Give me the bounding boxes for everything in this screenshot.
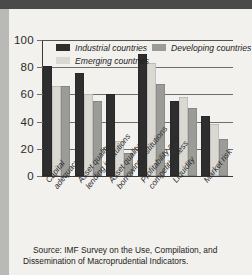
legend-swatch-emerging-icon xyxy=(56,57,70,64)
x-axis-labels: CapitaladequacyAsset quality:lending ins… xyxy=(42,177,242,245)
legend-item-developing-countries: Developing countries xyxy=(152,43,251,53)
y-tick-label-60: 60 xyxy=(21,88,34,100)
page-left-margin xyxy=(0,9,9,275)
y-tick-80 xyxy=(37,67,42,68)
y-tick-20 xyxy=(37,149,42,150)
legend-item-industrial-countries: Industrial countries xyxy=(56,43,142,53)
bar-group-gap xyxy=(228,175,232,176)
bar-chart-figure: 020406080100 CapitaladequacyAsset qualit… xyxy=(9,9,252,275)
y-tick-60 xyxy=(37,94,42,95)
y-tick-label-20: 20 xyxy=(21,143,34,155)
legend-row-2: Emerging countries xyxy=(56,55,234,66)
y-tick-label-0: 0 xyxy=(27,170,34,182)
bar-industrial-6 xyxy=(201,116,210,176)
page-top-band xyxy=(0,0,252,9)
legend-label-developing: Developing countries xyxy=(171,43,251,53)
y-tick-label-100: 100 xyxy=(14,34,34,46)
legend-row-1: Industrial countries Developing countrie… xyxy=(56,42,234,53)
legend-item-emerging-countries: Emerging countries xyxy=(56,56,149,66)
legend-swatch-industrial-icon xyxy=(56,44,70,51)
y-tick-100 xyxy=(37,40,42,41)
y-tick-40 xyxy=(37,122,42,123)
bar-industrial-1 xyxy=(43,66,52,176)
figure-page: 020406080100 CapitaladequacyAsset qualit… xyxy=(9,9,252,275)
y-tick-label-40: 40 xyxy=(21,116,34,128)
bar-group-gap xyxy=(197,175,201,176)
legend-label-emerging: Emerging countries xyxy=(75,56,149,66)
y-tick-label-80: 80 xyxy=(21,61,34,73)
chart-legend: Industrial countries Developing countrie… xyxy=(56,42,234,68)
legend-label-industrial: Industrial countries xyxy=(75,43,147,53)
source-note: Source: IMF Survey on the Use, Compilati… xyxy=(23,245,241,267)
legend-swatch-developing-icon xyxy=(152,44,166,51)
